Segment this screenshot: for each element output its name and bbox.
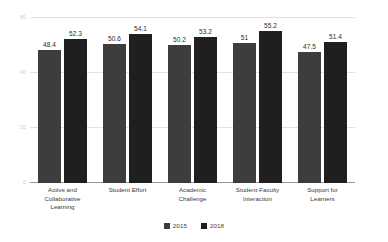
- legend-swatch-icon: [164, 223, 170, 229]
- y-tick-label: 40: [20, 69, 26, 75]
- category-label: AcademicChallenge: [160, 186, 225, 212]
- legend-label: 2018: [210, 222, 224, 229]
- bar-value-label: 47.5: [303, 43, 316, 50]
- bar-group: 50.654.1: [95, 18, 160, 183]
- y-tick-label: 0: [23, 179, 26, 185]
- bar-value-label: 55.2: [264, 22, 277, 29]
- category-label: Support forLearners: [290, 186, 355, 212]
- legend-item-2015[interactable]: 2015: [164, 222, 187, 229]
- legend-swatch-icon: [201, 223, 207, 229]
- bar-2015: 47.5: [298, 52, 321, 183]
- category-label: Student Effort: [95, 186, 160, 212]
- category-label: Student-FacultyInteraction: [225, 186, 290, 212]
- bar-2018: 52.3: [64, 39, 87, 183]
- y-tick-label: 20: [20, 124, 26, 130]
- y-tick-label: 60: [20, 14, 26, 20]
- legend-label: 2015: [173, 222, 187, 229]
- bar-value-label: 51: [241, 34, 248, 41]
- bar-2015: 50.6: [103, 44, 126, 183]
- bar-2018: 51.4: [324, 42, 347, 183]
- chart-legend: 20152018: [0, 222, 388, 229]
- bar-value-label: 53.2: [199, 28, 212, 35]
- bar-value-label: 51.4: [329, 33, 342, 40]
- bar-value-label: 48.4: [43, 41, 56, 48]
- bar-group: 50.253.2: [160, 18, 225, 183]
- x-axis-category-labels: Active andCollaborativeLearningStudent E…: [30, 186, 355, 212]
- bar-group: 48.452.3: [30, 18, 95, 183]
- bar-value-label: 52.3: [69, 30, 82, 37]
- legend-item-2018[interactable]: 2018: [201, 222, 224, 229]
- bar-2018: 55.2: [259, 31, 282, 183]
- bar-2018: 53.2: [194, 37, 217, 183]
- bar-value-label: 50.6: [108, 35, 121, 42]
- bar-chart: 0204060 48.452.350.654.150.253.25155.247…: [0, 0, 388, 242]
- bar-2015: 51: [233, 43, 256, 183]
- bar-group: 5155.2: [225, 18, 290, 183]
- category-label: Active andCollaborativeLearning: [30, 186, 95, 212]
- bar-2015: 50.2: [168, 45, 191, 183]
- bar-value-label: 50.2: [173, 36, 186, 43]
- bar-2015: 48.4: [38, 50, 61, 183]
- plot-area: 0204060 48.452.350.654.150.253.25155.247…: [30, 18, 355, 183]
- bar-2018: 54.1: [129, 34, 152, 183]
- bar-groups: 48.452.350.654.150.253.25155.247.551.4: [30, 18, 355, 183]
- bar-value-label: 54.1: [134, 25, 147, 32]
- bar-group: 47.551.4: [290, 18, 355, 183]
